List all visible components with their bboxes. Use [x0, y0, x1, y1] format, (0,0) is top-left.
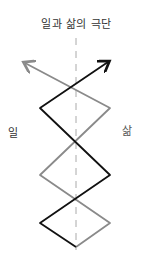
life-line: [25, 63, 110, 247]
work-life-spiral-diagram: [0, 0, 153, 263]
